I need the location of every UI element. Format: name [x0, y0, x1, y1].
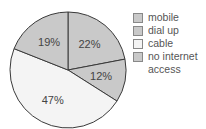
slice-cable-label: 47%: [42, 94, 64, 106]
legend-item-mobile: mobile: [133, 11, 198, 24]
legend-item-no-internet: no internet access: [133, 50, 198, 76]
legend-item-cable: cable: [133, 37, 198, 50]
legend-label: dial up: [148, 24, 179, 37]
legend-swatch-no-internet: [133, 52, 143, 62]
slice-no-internet-label: 19%: [38, 36, 60, 48]
slice-mobile-label: 22%: [78, 38, 100, 50]
legend-swatch-cable: [133, 39, 143, 49]
legend: mobile dial up cable no internet access: [133, 11, 198, 76]
legend-swatch-dial-up: [133, 26, 143, 36]
legend-label: cable: [148, 37, 173, 50]
legend-label: mobile: [148, 11, 179, 24]
slice-dial-up-label: 12%: [90, 70, 112, 82]
legend-item-dial-up: dial up: [133, 24, 198, 37]
legend-label: no internet access: [148, 50, 198, 76]
legend-swatch-mobile: [133, 13, 143, 23]
